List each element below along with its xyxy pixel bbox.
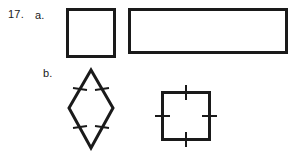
rhombus-tick-upper-left-icon — [73, 88, 87, 90]
part-b-label: b. — [43, 68, 53, 79]
rhombus-shape — [60, 62, 122, 151]
square-shape-plain — [62, 4, 118, 60]
rhombus-tick-lower-right-icon — [95, 126, 109, 128]
part-a-label: a. — [35, 10, 45, 21]
rectangle-shape — [124, 4, 290, 58]
rhombus-tick-lower-left-icon — [73, 126, 87, 128]
square-outline — [68, 10, 115, 57]
rhombus-outline — [69, 70, 113, 148]
problem-number-label: 17. — [8, 9, 24, 20]
rectangle-outline — [130, 10, 287, 53]
rhombus-tick-upper-right-icon — [95, 88, 109, 90]
square-shape-ticked — [152, 82, 220, 150]
worksheet-page: 17. a. b. — [0, 0, 297, 151]
